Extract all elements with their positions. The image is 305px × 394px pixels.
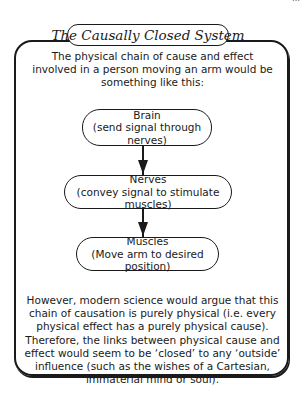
node-heading: Muscles [127, 235, 169, 248]
diagram-title: The Causally Closed System [67, 24, 229, 46]
node-heading: Brain [133, 109, 161, 122]
node-heading: Nerves [130, 173, 167, 186]
down-arrow-icon [142, 209, 144, 237]
node-detail: (send signal through nerves) [83, 121, 211, 146]
arrowhead-icon [138, 160, 148, 174]
down-arrow-icon [142, 146, 144, 175]
intro-text: The physical chain of cause and effect i… [30, 50, 275, 89]
conclusion-text: However, modern science would argue that… [20, 294, 285, 386]
flow-node-nerves: Nerves (convey signal to stimulate muscl… [64, 175, 232, 209]
flow-node-brain: Brain (send signal through nerves) [82, 109, 212, 146]
node-detail: (Move arm to desired position) [77, 248, 218, 273]
node-detail: (convey signal to stimulate muscles) [65, 186, 231, 211]
diagram-title-text: The Causally Closed System [51, 27, 244, 43]
cropped-header-fragment: … [292, 0, 301, 3]
arrowhead-icon [138, 222, 148, 236]
flow-node-muscles: Muscles (Move arm to desired position) [76, 237, 219, 271]
